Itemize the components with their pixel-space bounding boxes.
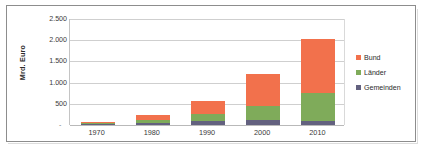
bar-group-1970[interactable] xyxy=(81,122,115,125)
bar-group-2000[interactable] xyxy=(246,74,280,125)
bar-group-1980[interactable] xyxy=(136,115,170,125)
legend-item-gemeinden[interactable]: Gemeinden xyxy=(356,80,414,95)
legend-label-gemeinden: Gemeinden xyxy=(364,84,401,92)
x-tick-1990: 1990 xyxy=(177,128,237,137)
y-tick-1000: 1.000 xyxy=(25,79,67,87)
bar-segment-1970-gemeinden[interactable] xyxy=(81,124,115,125)
x-tick-1980: 1980 xyxy=(122,128,182,137)
y-tick-2500: 2.500 xyxy=(25,15,67,23)
legend-label-länder: Länder xyxy=(364,69,386,77)
legend-swatch-länder-icon xyxy=(356,70,361,75)
legend-swatch-gemeinden-icon xyxy=(356,85,361,90)
bar-segment-2000-länder[interactable] xyxy=(246,106,280,120)
y-tick-500: 500 xyxy=(25,100,67,108)
gridline-0 xyxy=(70,125,344,126)
y-tick-2000: 2.000 xyxy=(25,36,67,44)
x-tick-1970: 1970 xyxy=(67,128,127,137)
bar-segment-1980-gemeinden[interactable] xyxy=(136,123,170,125)
legend-label-bund: Bund xyxy=(364,54,381,62)
y-axis-zero-mark: - xyxy=(59,121,61,128)
x-tick-2010: 2010 xyxy=(287,128,347,137)
bar-segment-2000-gemeinden[interactable] xyxy=(246,120,280,125)
legend-item-bund[interactable]: Bund xyxy=(356,50,414,65)
chart-legend: BundLänderGemeinden xyxy=(356,50,414,95)
bar-segment-2010-bund[interactable] xyxy=(301,39,335,93)
chart-frame: Mrd. Euro 5001.0001.5002.0002.500 - 1970… xyxy=(6,5,416,142)
bar-segment-2010-gemeinden[interactable] xyxy=(301,121,335,125)
bar-segment-2000-bund[interactable] xyxy=(246,74,280,106)
bar-group-1990[interactable] xyxy=(191,101,225,125)
legend-swatch-bund-icon xyxy=(356,55,361,60)
bar-segment-2010-länder[interactable] xyxy=(301,93,335,121)
bar-segment-1990-bund[interactable] xyxy=(191,101,225,113)
x-tick-2000: 2000 xyxy=(232,128,292,137)
chart-canvas: Mrd. Euro 5001.0001.5002.0002.500 - 1970… xyxy=(7,6,415,141)
gridline-2500 xyxy=(70,19,344,20)
bar-group-2010[interactable] xyxy=(301,39,335,125)
y-tick-1500: 1.500 xyxy=(25,57,67,65)
plot-area xyxy=(69,19,345,125)
bar-segment-1990-gemeinden[interactable] xyxy=(191,121,225,125)
legend-item-länder[interactable]: Länder xyxy=(356,65,414,80)
bar-segment-1990-länder[interactable] xyxy=(191,114,225,121)
